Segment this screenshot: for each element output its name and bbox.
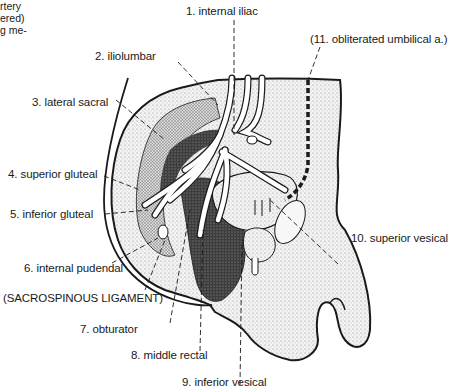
- label-middle-rectal: 8. middle rectal: [131, 349, 207, 362]
- urethra: [252, 258, 258, 275]
- label-inferior-gluteal: 5. inferior gluteal: [10, 208, 93, 221]
- label-superior-gluteal: 4. superior gluteal: [8, 168, 98, 181]
- label-iliolumbar: 2. iliolumbar: [95, 50, 156, 63]
- label-lateral-sacral: 3. lateral sacral: [32, 96, 108, 109]
- label-sacrospinous-ligament: (SACROSPINOUS LIGAMENT): [3, 292, 163, 305]
- prostate: [243, 228, 275, 262]
- obturator-foramen: [158, 225, 168, 239]
- label-obliterated-umbilical: (11. obliterated umbilical a.): [310, 33, 447, 46]
- caption-fragment-3: g me-: [0, 24, 27, 37]
- label-inferior-vesical: 9. inferior vesical: [182, 376, 266, 388]
- label-obturator: 7. obturator: [80, 323, 138, 336]
- label-superior-vesical: 10. superior vesical: [351, 232, 448, 245]
- label-internal-iliac: 1. internal iliac: [186, 5, 258, 18]
- label-internal-pudendal: 6. internal pudendal: [24, 262, 123, 275]
- pelvic-arteries-diagram: [0, 0, 453, 388]
- external-iliac-cut-end: [247, 136, 257, 144]
